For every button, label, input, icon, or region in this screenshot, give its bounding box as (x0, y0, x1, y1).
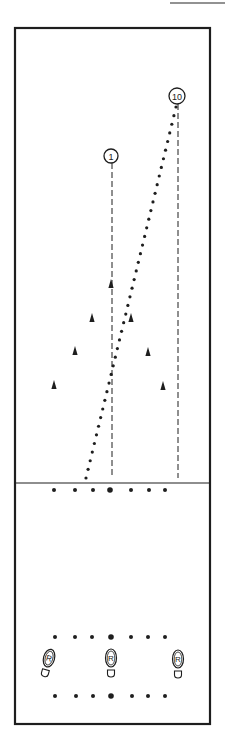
dot-marker (53, 635, 57, 639)
run-path-dotted-line (84, 105, 177, 479)
dot-row (53, 693, 167, 699)
cone-markers (51, 279, 165, 390)
dot-marker (90, 635, 94, 639)
cone-icon (89, 313, 94, 322)
path-dot (166, 140, 169, 143)
path-dot (91, 451, 94, 454)
path-dot (99, 416, 102, 419)
footprint-icon: R (106, 649, 117, 677)
numbered-markers: 110 (104, 88, 185, 163)
path-dot (86, 468, 89, 471)
dot-marker (108, 634, 114, 640)
footprint-label: R (175, 655, 181, 664)
path-dot (133, 278, 136, 281)
path-dot (112, 364, 115, 367)
path-dot (172, 114, 175, 117)
path-dot (118, 338, 121, 341)
path-dot (114, 356, 117, 359)
path-dot (168, 131, 171, 134)
dot-marker (53, 694, 57, 698)
path-dot (164, 149, 167, 152)
dot-marker (74, 694, 78, 698)
marker-10: 10 (169, 88, 185, 104)
path-dot (160, 166, 163, 169)
dot-marker (163, 694, 167, 698)
cone-icon (108, 279, 113, 288)
path-dot (156, 183, 159, 186)
path-dot (141, 243, 144, 246)
path-dot (174, 105, 177, 108)
path-dot (126, 304, 129, 307)
path-dot (122, 321, 125, 324)
path-dot (128, 295, 131, 298)
dot-marker (147, 488, 151, 492)
dot-marker (107, 487, 113, 493)
marker-1: 1 (104, 149, 118, 163)
path-dot (143, 235, 146, 238)
footprint-label: R (108, 654, 114, 663)
dot-row (53, 634, 167, 640)
dot-marker (91, 694, 95, 698)
dot-marker (129, 488, 133, 492)
path-dot (139, 252, 142, 255)
marker-label: 1 (108, 152, 113, 162)
path-dot (116, 347, 119, 350)
dot-marker (91, 488, 95, 492)
dot-marker (73, 488, 77, 492)
path-dot (149, 209, 152, 212)
path-dot (107, 381, 110, 384)
dot-row (52, 487, 167, 493)
dot-marker (73, 635, 77, 639)
path-dot (137, 261, 140, 264)
drill-diagram: 110 RRR (0, 0, 225, 754)
path-dot (103, 399, 106, 402)
path-dot (101, 407, 104, 410)
dot-marker (146, 635, 150, 639)
path-dot (162, 157, 165, 160)
path-dot (151, 200, 154, 203)
path-dot (170, 123, 173, 126)
cone-icon (51, 380, 56, 389)
footprint-icon: R (173, 650, 184, 678)
dot-marker (129, 635, 133, 639)
path-dot (130, 287, 133, 290)
path-dot (89, 459, 92, 462)
cone-icon (128, 313, 133, 322)
marker-lines (112, 104, 178, 478)
marker-label: 10 (172, 92, 182, 102)
dot-marker (130, 694, 134, 698)
path-dot (93, 442, 96, 445)
path-dot (97, 425, 100, 428)
cone-icon (72, 346, 77, 355)
footprint-icon: R (39, 648, 57, 678)
path-dot (147, 218, 150, 221)
dot-marker (163, 488, 167, 492)
path-dot (158, 174, 161, 177)
cone-icon (160, 381, 165, 390)
dot-marker (146, 694, 150, 698)
path-dot (84, 476, 87, 479)
path-dot (124, 312, 127, 315)
path-dot (105, 390, 108, 393)
path-dot (145, 226, 148, 229)
dot-marker (52, 488, 56, 492)
path-dot (110, 373, 113, 376)
path-dot (95, 433, 98, 436)
dot-marker (108, 693, 114, 699)
path-dot (120, 330, 123, 333)
path-dot (135, 269, 138, 272)
dot-marker (163, 635, 167, 639)
cone-icon (145, 347, 150, 356)
path-dot (153, 192, 156, 195)
footprints: RRR (39, 648, 184, 678)
